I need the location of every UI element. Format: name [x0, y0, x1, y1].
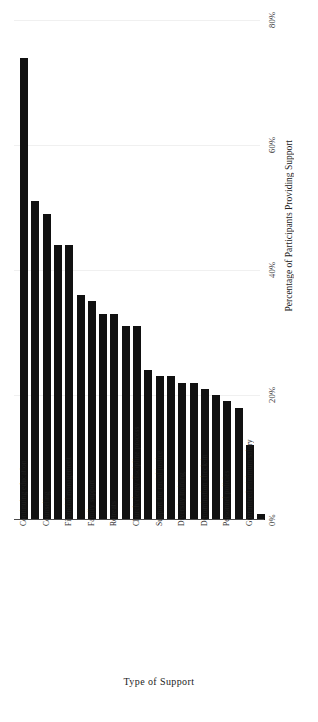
- bar-chart: 0%20%40%60%80% Percentage of Participant…: [0, 0, 318, 722]
- y-tick-label: 0%: [262, 508, 282, 532]
- y-axis: 0%20%40%60%80%: [262, 0, 282, 540]
- x-tick-label: Guaranteed minimum salary: [245, 440, 254, 526]
- bar: [212, 395, 220, 520]
- bar: [144, 370, 152, 520]
- x-tick-label: Diversity training: [177, 472, 186, 526]
- x-tick-label: Counseling: [42, 491, 51, 526]
- x-axis-labels: Continuing educationCounselingFinancial …: [0, 524, 262, 664]
- x-tick-label: Continuing education: [19, 460, 28, 526]
- y-tick-label: 80%: [262, 8, 282, 32]
- x-tick-label: Church/clergy discipline process: [132, 427, 141, 526]
- bar: [31, 201, 39, 520]
- y-tick-label: 60%: [262, 133, 282, 157]
- x-tick-label: Family support: [87, 480, 96, 526]
- bar: [20, 58, 28, 521]
- x-tick-label: Support for racial justice: [155, 451, 164, 526]
- bar: [110, 314, 118, 520]
- y-tick-label: 40%: [262, 258, 282, 282]
- y-tick-label: 20%: [262, 383, 282, 407]
- x-axis-title: Type of Support: [0, 676, 318, 687]
- bar: [99, 314, 107, 520]
- bar: [43, 214, 51, 520]
- x-tick-label: Retreats: [109, 501, 118, 526]
- x-tick-label: Personnel policies: [222, 471, 231, 526]
- bar: [54, 245, 62, 520]
- bar: [167, 376, 175, 520]
- x-tick-label: Financial management: [64, 457, 73, 526]
- bar: [190, 383, 198, 521]
- y-axis-title: Percentage of Participants Providing Sup…: [284, 140, 294, 312]
- bar: [235, 408, 243, 521]
- bar: [122, 326, 130, 520]
- x-tick-label: Denomination check-in: [200, 455, 209, 526]
- bar: [77, 295, 85, 520]
